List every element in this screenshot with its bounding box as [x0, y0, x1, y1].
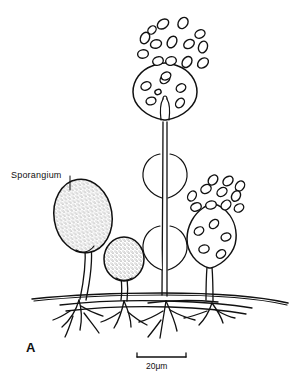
scale-bar — [137, 353, 186, 357]
rhizoids — [53, 300, 235, 338]
scale-bar-label: 20μm — [146, 361, 167, 371]
sporangium-label: Sporangium — [11, 170, 62, 180]
sporangium-immature-small — [104, 237, 144, 301]
sporangium-mature-stippled — [49, 175, 118, 300]
empty-sporangium-husk-upper — [143, 154, 187, 198]
panel-letter: A — [26, 340, 36, 355]
small-sporangium-wall — [104, 237, 144, 281]
fungus-sporangium-figure: Sporangium A 20μm — [0, 0, 302, 384]
sporangium-wall — [49, 175, 118, 257]
sporangium-dehiscing-central — [133, 63, 197, 120]
sporangium-dehiscing-right — [187, 204, 236, 301]
substrate-surface — [32, 293, 288, 305]
stolons — [60, 301, 252, 314]
empty-sporangium-husk-lower — [143, 226, 187, 270]
dehiscing-sporangium-wall — [133, 63, 197, 120]
figure-drawing-canvas: Sporangium A 20μm — [0, 0, 302, 384]
